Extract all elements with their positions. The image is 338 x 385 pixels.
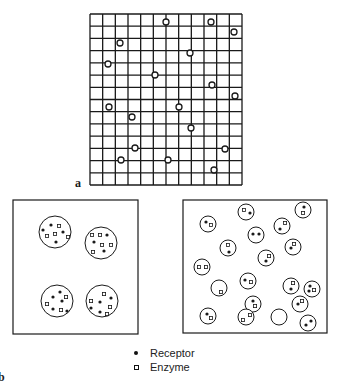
- enzyme-square: [248, 313, 251, 316]
- grid-marker-circle: [118, 157, 124, 163]
- dispersed-panel: [183, 200, 327, 333]
- enzyme-square: [242, 208, 245, 211]
- receptor-dot: [98, 310, 101, 313]
- receptor-dot: [54, 240, 57, 243]
- enzyme-square-icon: [128, 365, 144, 370]
- vesicle: [194, 259, 210, 275]
- receptor-dot-icon: [128, 351, 144, 355]
- vesicle: [238, 309, 254, 325]
- panel-b-label: b: [0, 370, 5, 385]
- enzyme-square: [283, 221, 286, 224]
- vesicle: [200, 216, 216, 232]
- enzyme-square: [209, 223, 212, 226]
- vesicle-membrane: [295, 202, 311, 218]
- vesicle: [304, 281, 320, 297]
- receptor-dot: [51, 307, 54, 310]
- receptor-dot: [98, 300, 101, 303]
- enzyme-square: [109, 243, 112, 246]
- enzyme-square: [219, 290, 222, 293]
- vesicle: [274, 218, 290, 234]
- enzyme-square: [89, 299, 92, 302]
- grid-marker-circle: [129, 114, 135, 120]
- cluster: [85, 227, 117, 259]
- vesicle: [283, 278, 299, 294]
- receptor-dot: [296, 302, 299, 305]
- grid-marker-circle: [208, 19, 214, 25]
- receptor-dot: [251, 299, 254, 302]
- enzyme-square: [312, 288, 315, 291]
- receptor-dot: [204, 220, 207, 223]
- enzyme-square: [204, 265, 207, 268]
- receptor-dot: [109, 296, 112, 299]
- vesicle-membrane: [283, 278, 299, 294]
- enzyme-square: [105, 312, 108, 315]
- receptor-dot: [60, 299, 63, 302]
- enzyme-square: [108, 305, 111, 308]
- grid-marker-circle: [163, 19, 169, 25]
- cluster-membrane: [41, 285, 73, 317]
- legend-label-enzyme: Enzyme: [150, 361, 190, 373]
- enzyme-square: [291, 281, 294, 284]
- receptor-dot: [105, 233, 108, 236]
- grid-marker-circle: [187, 50, 193, 56]
- receptor-dot: [248, 211, 251, 214]
- vesicle: [238, 204, 254, 220]
- enzyme-square: [90, 233, 93, 236]
- grid-marker-circle: [165, 157, 171, 163]
- vesicle-membrane: [248, 227, 264, 243]
- enzyme-square: [300, 299, 303, 302]
- enzyme-square: [197, 265, 200, 268]
- grid-marker-circle: [231, 29, 237, 35]
- grid-marker-circle: [117, 40, 123, 46]
- receptor-dot: [243, 278, 246, 281]
- legend-item-enzyme: Enzyme: [128, 360, 195, 374]
- receptor-dot: [58, 290, 61, 293]
- enzyme-square: [292, 242, 295, 245]
- receptor-dot: [302, 205, 305, 208]
- enzyme-square: [91, 250, 94, 253]
- vesicle: [292, 296, 308, 312]
- receptor-dot: [205, 312, 208, 315]
- vesicle: [248, 227, 264, 243]
- vesicle-membrane: [258, 250, 274, 266]
- vesicle: [258, 250, 274, 266]
- enzyme-square: [59, 308, 62, 311]
- vesicle-membrane: [220, 240, 236, 256]
- legend-item-receptor: Receptor: [128, 346, 195, 360]
- enzyme-square: [64, 295, 67, 298]
- grid-marker-circle: [222, 146, 228, 152]
- vesicle-membrane: [200, 216, 216, 232]
- legend-label-receptor: Receptor: [150, 347, 195, 359]
- enzyme-square: [66, 235, 69, 238]
- grid-marker-circle: [188, 125, 194, 131]
- receptor-dot: [51, 295, 54, 298]
- legend: Receptor Enzyme: [128, 346, 195, 374]
- vesicle: [271, 309, 287, 325]
- enzyme-square: [98, 233, 101, 236]
- enzyme-square: [241, 318, 244, 321]
- receptor-dot: [89, 306, 92, 309]
- vesicle: [200, 308, 216, 324]
- enzyme-square: [100, 243, 103, 246]
- receptor-dot: [278, 227, 281, 230]
- grid-marker-circle: [209, 82, 215, 88]
- receptor-dot: [308, 284, 311, 287]
- grid-marker-circle: [132, 145, 138, 151]
- vesicle-membrane: [292, 296, 308, 312]
- grid-marker-circle: [232, 93, 238, 99]
- vesicle: [285, 239, 301, 255]
- receptor-dot: [102, 249, 105, 252]
- vesicle-membrane: [271, 309, 287, 325]
- receptor-dot: [307, 289, 310, 292]
- cluster: [39, 216, 71, 248]
- vesicle: [295, 202, 311, 218]
- panel-a-label: a: [75, 176, 81, 191]
- enzyme-square: [249, 280, 252, 283]
- cluster: [86, 285, 118, 317]
- vesicle-membrane: [300, 315, 316, 331]
- vesicle: [300, 315, 316, 331]
- vesicle-membrane: [285, 239, 301, 255]
- enzyme-square: [209, 316, 212, 319]
- receptor-dot: [289, 246, 292, 249]
- enzyme-square: [267, 254, 270, 257]
